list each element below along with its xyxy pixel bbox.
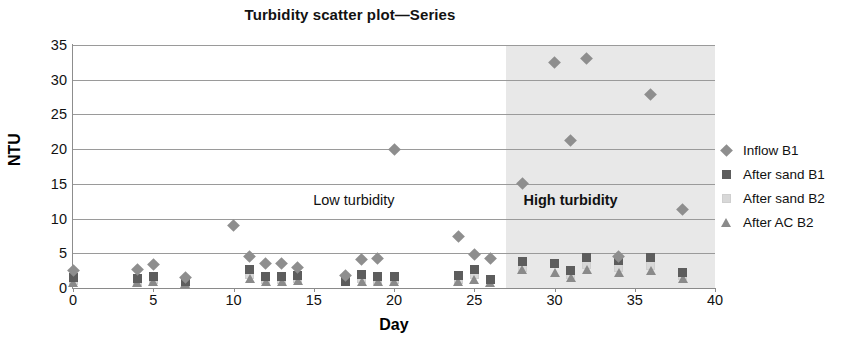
x-tick-mark-40 xyxy=(715,288,716,292)
x-tick-mark-0 xyxy=(73,288,74,292)
x-tick-label-30: 30 xyxy=(533,292,577,308)
x-tick-mark-25 xyxy=(474,288,475,292)
x-tick-label-40: 40 xyxy=(693,292,737,308)
y-tick-label-30: 30 xyxy=(27,72,67,88)
x-tick-mark-30 xyxy=(555,288,556,292)
turbidity-scatter-chart: Turbidity scatter plot—Series NTU Day Lo… xyxy=(0,0,853,349)
y-tick-label-35: 35 xyxy=(27,37,67,53)
x-tick-label-20: 20 xyxy=(372,292,416,308)
gridline-y-35 xyxy=(73,45,715,46)
diamond-marker-icon xyxy=(720,144,733,157)
annotation-low-turbidity: Low turbidity xyxy=(313,192,394,208)
high-turbidity-shaded-region xyxy=(506,45,715,288)
annotation-high-turbidity: High turbidity xyxy=(523,192,617,208)
x-tick-mark-5 xyxy=(153,288,154,292)
square-marker-icon xyxy=(722,170,731,179)
legend-item-square[interactable]: After sand B1 xyxy=(726,162,851,186)
y-tick-label-20: 20 xyxy=(27,141,67,157)
legend-label: After sand B1 xyxy=(743,163,825,187)
legend-label: Inflow B1 xyxy=(743,139,799,163)
y-tick-label-25: 25 xyxy=(27,106,67,122)
gridline-y-20 xyxy=(73,149,715,150)
x-tick-mark-15 xyxy=(314,288,315,292)
triangle-marker-icon xyxy=(721,218,731,227)
x-tick-mark-10 xyxy=(234,288,235,292)
x-tick-label-35: 35 xyxy=(613,292,657,308)
legend-label: After AC B2 xyxy=(743,211,814,235)
x-tick-mark-20 xyxy=(394,288,395,292)
chart-title: Turbidity scatter plot—Series xyxy=(0,6,700,23)
x-tick-label-15: 15 xyxy=(292,292,336,308)
gridline-y-10 xyxy=(73,219,715,220)
x-tick-label-0: 0 xyxy=(51,292,95,308)
x-tick-label-10: 10 xyxy=(212,292,256,308)
y-axis-line xyxy=(72,44,73,289)
y-tick-label-15: 15 xyxy=(27,176,67,192)
gridline-y-25 xyxy=(73,114,715,115)
legend-item-diamond[interactable]: Inflow B1 xyxy=(726,138,851,162)
legend-label: After sand B2 xyxy=(743,187,825,211)
gridline-y-30 xyxy=(73,80,715,81)
plot-area: Low turbidityHigh turbidity xyxy=(73,45,715,288)
gridline-y-5 xyxy=(73,253,715,254)
gridline-y-15 xyxy=(73,184,715,185)
legend-item-triangle[interactable]: After AC B2 xyxy=(726,210,851,234)
legend-item-square-light[interactable]: After sand B2 xyxy=(726,186,851,210)
x-tick-label-5: 5 xyxy=(131,292,175,308)
x-tick-mark-35 xyxy=(635,288,636,292)
y-tick-label-5: 5 xyxy=(27,245,67,261)
x-axis-title: Day xyxy=(73,316,715,334)
y-axis-title: NTU xyxy=(6,133,24,166)
y-tick-label-10: 10 xyxy=(27,211,67,227)
x-tick-label-25: 25 xyxy=(452,292,496,308)
square-light-marker-icon xyxy=(722,194,731,203)
chart-legend: Inflow B1After sand B1After sand B2After… xyxy=(726,138,851,234)
